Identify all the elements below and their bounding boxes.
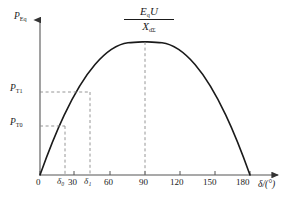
- power-angle-figure: PEq δ/(°) EqU XdΣ PT1 PT0 0 δ₀ 30 δ₁ 60 …: [0, 0, 293, 210]
- formula-numerator-tail: U: [150, 5, 158, 17]
- x-axis-label: δ/(°): [258, 180, 275, 190]
- y-marker-pt0-base: P: [10, 117, 16, 127]
- y-marker-pt1: PT1: [10, 84, 23, 94]
- y-axis-label: PEq: [14, 12, 27, 22]
- y-marker-pt0-subscript: T0: [16, 121, 23, 128]
- y-marker-pt0: PT0: [10, 118, 23, 128]
- formula-denominator-base: X: [142, 20, 149, 32]
- x-tick-label-30: 30: [68, 178, 77, 187]
- y-marker-pt1-subscript: T1: [16, 87, 23, 94]
- x-tick-label-0: 0: [36, 178, 41, 187]
- x-tick-label-90: 90: [139, 178, 148, 187]
- x-tick-label-delta0: δ₀: [57, 177, 64, 186]
- x-tick-label-60: 60: [104, 178, 113, 187]
- x-tick-label-180: 180: [236, 178, 250, 187]
- y-axis-label-subscript: Eq: [20, 15, 27, 22]
- formula-numerator-subscript: q: [147, 11, 150, 18]
- formula-denominator: XdΣ: [118, 21, 180, 33]
- y-axis-label-base: P: [14, 11, 20, 21]
- formula-denominator-subscript: dΣ: [149, 26, 156, 33]
- x-tick-label-120: 120: [170, 178, 184, 187]
- x-tick-label-150: 150: [203, 178, 217, 187]
- peak-value-formula: EqU XdΣ: [118, 6, 180, 32]
- formula-numerator-base: E: [140, 5, 147, 17]
- y-marker-pt1-base: P: [10, 83, 16, 93]
- formula-numerator: EqU: [118, 6, 180, 19]
- x-tick-label-delta1: δ₁: [84, 177, 91, 186]
